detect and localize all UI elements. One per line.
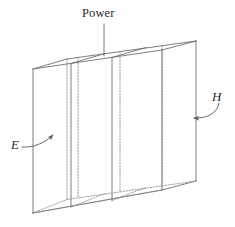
h-field-arrow [194, 103, 219, 118]
top-slab-line-2 [112, 48, 146, 58]
edge-bottom-right-depth [162, 181, 196, 190]
edge-top-right-depth [162, 41, 196, 50]
box-top-face [33, 41, 196, 69]
top-slab-line-1 [71, 54, 105, 64]
hidden-edge-bottom-back [67, 181, 196, 200]
e-field-arrow [22, 135, 53, 147]
label-e-field: E [11, 138, 19, 151]
waveguide-box-figure [0, 0, 235, 227]
box-bottom-solid-edges [33, 181, 196, 213]
hidden-edge-bottom-left-depth [33, 200, 67, 214]
front-face-slab-verticals [71, 58, 112, 208]
label-power: Power [82, 7, 114, 20]
edge-top-front [33, 50, 162, 69]
diagram-canvas: Power E H [0, 0, 235, 227]
edge-top-back [67, 41, 196, 59]
edge-top-left-depth [33, 59, 67, 69]
label-h-field: H [212, 90, 221, 103]
